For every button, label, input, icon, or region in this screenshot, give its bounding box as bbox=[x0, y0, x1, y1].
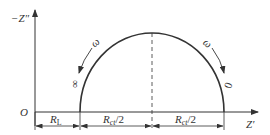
origin-label: O bbox=[20, 106, 28, 118]
right-omega-label: ω bbox=[201, 36, 215, 50]
zero-label: 0 bbox=[221, 80, 234, 90]
dim-rl-label: RL bbox=[49, 113, 62, 127]
y-axis-label: −Z″ bbox=[11, 12, 30, 24]
nyquist-diagram: −Z″ Z′ O ω ∞ ω 0 RL Rct/2 Rct/2 bbox=[0, 0, 270, 135]
left-frequency-arrow bbox=[79, 48, 92, 73]
dim-rct-right-label: Rct/2 bbox=[174, 113, 196, 127]
dim-rct-left-label: Rct/2 bbox=[102, 113, 124, 127]
infinity-label: ∞ bbox=[70, 80, 82, 88]
left-omega-label: ω bbox=[88, 35, 102, 49]
right-frequency-arrow bbox=[212, 48, 224, 73]
x-axis-label: Z′ bbox=[246, 118, 255, 130]
